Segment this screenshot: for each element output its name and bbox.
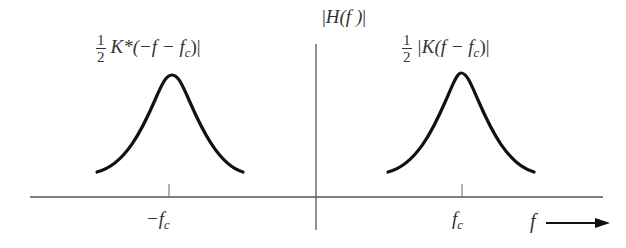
bar-close: | xyxy=(362,6,366,27)
left-bell-curve xyxy=(97,75,243,172)
left-expr-close: )| xyxy=(190,36,200,57)
right-expr-close: )| xyxy=(479,36,489,57)
tick-label-neg-fc: −fc xyxy=(146,208,170,233)
half-fraction: 1 2 xyxy=(96,32,106,65)
right-bell-curve xyxy=(388,73,534,172)
f-label: f xyxy=(530,210,536,232)
fraction-denominator: 2 xyxy=(402,49,412,65)
neg-fc-main: −f xyxy=(146,208,164,229)
pos-fc-sub: c xyxy=(457,217,463,232)
fraction-numerator: 1 xyxy=(402,32,412,49)
neg-fc-sub: c xyxy=(164,217,170,232)
f-arrow-head-icon xyxy=(595,218,610,228)
magnitude-axis-label: |H(f )| xyxy=(322,6,366,28)
right-expr-main: |K(f − f xyxy=(417,36,474,57)
tick-label-pos-fc: fc xyxy=(452,208,463,233)
h-of-f-text: H(f ) xyxy=(326,6,362,27)
fraction-denominator: 2 xyxy=(96,49,106,65)
right-curve-label: 1 2 |K(f − fc)| xyxy=(402,32,490,65)
half-fraction: 1 2 xyxy=(402,32,412,65)
left-curve-label: 1 2 K*(−f − fc)| xyxy=(96,32,201,65)
left-expr-main: K*(−f − f xyxy=(111,36,185,57)
fraction-numerator: 1 xyxy=(96,32,106,49)
frequency-axis-label: f xyxy=(530,210,536,233)
